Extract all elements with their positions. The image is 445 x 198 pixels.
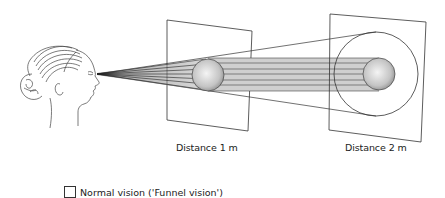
legend: Normal vision ('Funnel vision') [64, 186, 223, 198]
legend-swatch [64, 186, 76, 198]
distance-1-label: Distance 1 m [176, 142, 238, 153]
sphere-distance-2 [363, 58, 395, 90]
vision-funnel-rays [97, 59, 208, 91]
legend-label: Normal vision ('Funnel vision') [80, 187, 223, 198]
sphere-distance-1 [192, 59, 224, 91]
funnel-vision-diagram: Distance 1 m Distance 2 m Normal vision … [0, 0, 445, 198]
distance-2-label: Distance 2 m [345, 142, 407, 153]
vision-beam [208, 58, 379, 91]
head-profile-illustration [20, 46, 99, 128]
